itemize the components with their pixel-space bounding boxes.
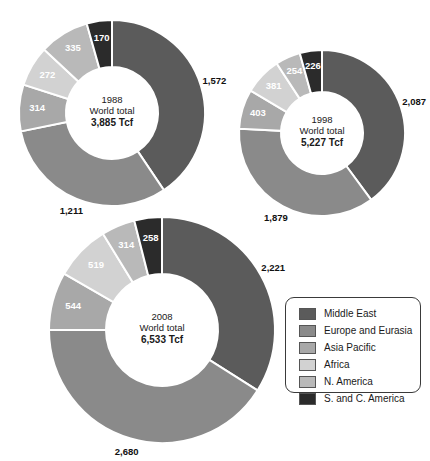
slice-value-label: 254	[287, 65, 304, 76]
slice-value-label: 544	[65, 300, 82, 311]
slice-value-label: 272	[39, 69, 55, 80]
donut-center-total: 5,227 Tcf	[301, 137, 344, 148]
donut-center-total: 3,885 Tcf	[91, 117, 134, 128]
legend-color-swatch	[299, 376, 316, 388]
legend-color-swatch	[299, 325, 316, 337]
legend-color-swatch	[299, 393, 316, 405]
legend-item: Europe and Eurasia	[299, 324, 412, 337]
legend-item: Africa	[299, 358, 412, 371]
donut-center-total: 6,533 Tcf	[141, 334, 184, 345]
donut-center-subtitle: World total	[139, 322, 184, 333]
legend-item-label: S. and C. America	[324, 393, 405, 405]
donut-center-year: 2008	[151, 311, 172, 322]
chart-legend: Middle EastEurope and EurasiaAsia Pacifi…	[285, 297, 421, 393]
slice-value-label: 2,221	[261, 262, 285, 273]
legend-item-label: N. America	[324, 376, 373, 388]
legend-color-swatch	[299, 359, 316, 371]
slice-value-label: 2,087	[402, 96, 426, 107]
legend-item: S. and C. America	[299, 392, 412, 405]
chart-1988: 1,5721,2113142723351701988World total3,8…	[0, 0, 235, 236]
donut-center-year: 1998	[311, 114, 332, 125]
legend-color-swatch	[299, 308, 316, 320]
donut-center-year: 1988	[101, 94, 122, 105]
legend-color-swatch	[299, 342, 316, 354]
legend-item-label: Middle East	[324, 308, 376, 320]
legend-item: Asia Pacific	[299, 341, 412, 354]
chart-1998: 2,0871,8794033812542261998World total5,2…	[209, 20, 430, 246]
legend-item: Middle East	[299, 307, 412, 320]
slice-value-label: 335	[65, 42, 82, 53]
slice-value-label: 2,680	[115, 446, 139, 457]
slice-value-label: 314	[118, 239, 135, 250]
slice-value-label: 519	[88, 259, 104, 270]
slice-value-label: 226	[305, 60, 321, 71]
slice-value-label: 1,572	[202, 75, 226, 86]
slice-value-label: 1,211	[60, 205, 84, 216]
donut-center-subtitle: World total	[89, 105, 134, 116]
slice-value-label: 170	[94, 32, 110, 43]
legend-items: Middle EastEurope and EurasiaAsia Pacifi…	[299, 307, 412, 405]
legend-item-label: Asia Pacific	[324, 342, 376, 354]
legend-item-label: Europe and Eurasia	[324, 325, 412, 337]
legend-item-label: Africa	[324, 359, 350, 371]
donut-center-subtitle: World total	[299, 125, 344, 136]
legend-item: N. America	[299, 375, 412, 388]
slice-value-label: 403	[250, 107, 266, 118]
slice-value-label: 314	[29, 102, 46, 113]
slice-value-label: 381	[266, 80, 283, 91]
slice-value-label: 1,879	[264, 212, 288, 223]
pie-slice	[21, 122, 164, 206]
